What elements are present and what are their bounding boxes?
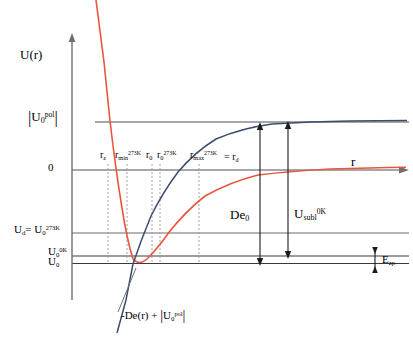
label-u-d-273k: Ud= U0273K: [14, 224, 60, 237]
tick-label-r-d: = rd: [224, 152, 239, 163]
tick-label-r-max-273k: rmax273K: [190, 150, 217, 161]
caption-leader-line: [118, 268, 136, 312]
figure-canvas: U(r) r 0 |U0pol| Ud= U0273K U00K U0 rz r…: [0, 0, 413, 337]
label-bottom-curve-caption: -De(r) + |U0pol|: [121, 310, 185, 323]
tick-label-r-0-273k: r0273K: [157, 150, 176, 161]
tick-label-r-z: rz: [100, 150, 106, 161]
measure-usubl-arrow-bottom-icon: [285, 251, 291, 259]
label-u-pol: |U0pol|: [28, 110, 58, 125]
abs-bar-right-2: |: [183, 310, 186, 322]
x-axis-title: r: [351, 155, 355, 168]
label-de0: De0: [230, 208, 249, 223]
measure-ezp-arrow-top-icon: [372, 247, 378, 254]
measure-ezp-arrow-bottom-icon: [372, 266, 378, 273]
tick-label-r-0: r0: [146, 150, 152, 161]
origin-label: 0: [48, 162, 54, 173]
label-u-0: U0: [48, 256, 59, 269]
tick-label-r-min-273k: rmin273K: [115, 150, 141, 161]
measure-de0-arrow-bottom-icon: [257, 258, 263, 266]
y-axis-arrow-icon: [69, 33, 76, 42]
label-u-subl-0k: Usubl0K: [294, 207, 326, 222]
abs-bar-right: |: [54, 111, 57, 125]
y-axis-title: U(r): [20, 48, 42, 61]
label-e-zp: Ezp: [382, 254, 395, 267]
curve-red-potential: [96, 0, 406, 263]
